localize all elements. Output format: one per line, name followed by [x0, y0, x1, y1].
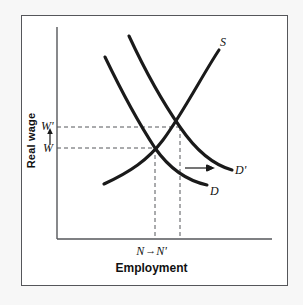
- x-tick-arrow-icon: →: [145, 244, 156, 256]
- x-tick-label-n-to-n-prime: N→N': [0, 245, 303, 257]
- demand-shift-arrow: [185, 165, 215, 172]
- y-tick-label-w: W: [43, 142, 53, 154]
- curve-label-demand: D: [210, 185, 219, 197]
- curve-label-demand-shifted: D': [235, 164, 246, 176]
- curve-label-supply: S: [220, 36, 226, 48]
- supply-curve: [104, 50, 219, 184]
- y-tick-label-w-prime: W': [41, 120, 54, 132]
- x-tick-label-to: N': [156, 244, 167, 258]
- x-tick-label-from: N: [136, 244, 144, 258]
- y-axis-title: Real wage: [26, 104, 37, 178]
- x-axis-title: Employment: [0, 262, 303, 274]
- demand-curve: [105, 57, 207, 185]
- figure-root: S D D' W' W N→N' Employment Real wage: [0, 0, 303, 305]
